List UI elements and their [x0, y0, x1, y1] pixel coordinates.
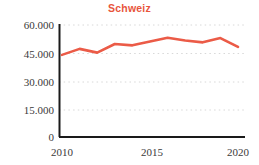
ytick-label-45000: 45.000	[24, 48, 55, 60]
xtick-label-2010: 2010	[51, 146, 74, 158]
chart-card: Schweiz 60.000 45.000 30.000 15.000 0 20…	[0, 0, 259, 165]
ytick-label-60000: 60.000	[24, 19, 55, 31]
ytick-label-15000: 15.000	[24, 104, 55, 116]
y-axis-tick-labels: 60.000 45.000 30.000 15.000 0	[24, 19, 55, 143]
ytick-label-0: 0	[49, 131, 55, 143]
ytick-label-30000: 30.000	[24, 76, 55, 88]
line-chart-plot: 60.000 45.000 30.000 15.000 0 2010 2015 …	[0, 0, 259, 165]
data-series-schweiz	[62, 38, 238, 55]
x-axis-tick-labels: 2010 2015 2020	[51, 146, 250, 158]
series-line-schweiz	[62, 38, 238, 55]
xtick-label-2020: 2020	[227, 146, 250, 158]
xtick-label-2015: 2015	[141, 146, 164, 158]
